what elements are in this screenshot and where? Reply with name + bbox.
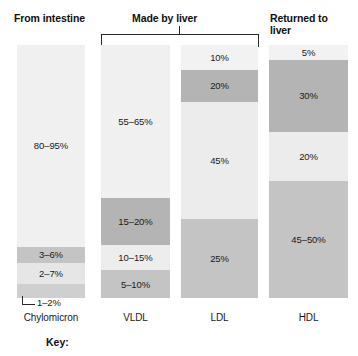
bar-segment-label: 5–10% bbox=[121, 279, 150, 290]
bar-segment-ldl-2[interactable]: 45% bbox=[181, 102, 258, 219]
group-header-made-by-liver: Made by liver bbox=[132, 12, 242, 24]
bar-segment-label: 55–65% bbox=[118, 116, 152, 127]
bar-segment-vldl-0[interactable]: 55–65% bbox=[101, 45, 170, 198]
bar-segment-hdl-0[interactable]: 5% bbox=[269, 45, 348, 60]
bar-segment-label: 80–95% bbox=[34, 140, 68, 151]
bar-segment-vldl-2[interactable]: 10–15% bbox=[101, 245, 170, 270]
bar-segment-vldl-3[interactable]: 5–10% bbox=[101, 270, 170, 298]
bar-segment-label: 30% bbox=[299, 90, 318, 101]
bar-column-hdl[interactable]: 5%30%20%45–50% bbox=[269, 45, 348, 298]
bar-segment-chylomicron-0[interactable]: 80–95% bbox=[17, 45, 85, 247]
bar-segment-label: 20% bbox=[299, 151, 318, 162]
bar-column-chylomicron[interactable]: 80–95%3–6%2–7% bbox=[17, 45, 85, 298]
bar-segment-ldl-3[interactable]: 25% bbox=[181, 219, 258, 298]
bar-segment-label: 45–50% bbox=[291, 234, 325, 245]
bracket-top-rule bbox=[101, 34, 259, 35]
bar-segment-chylomicron-1[interactable]: 3–6% bbox=[17, 247, 85, 263]
bar-segment-label: 45% bbox=[210, 155, 229, 166]
axis-label-chylomicron: Chylomicron bbox=[7, 312, 95, 323]
axis-label-ldl: LDL bbox=[181, 312, 258, 323]
bar-column-ldl[interactable]: 10%20%45%25% bbox=[181, 45, 258, 298]
bar-segment-label: 2–7% bbox=[39, 268, 63, 279]
bar-column-vldl[interactable]: 55–65%15–20%10–15%5–10% bbox=[101, 45, 170, 298]
bracket-right-cap bbox=[258, 34, 259, 47]
axis-label-vldl: VLDL bbox=[101, 312, 170, 323]
bar-segment-chylomicron-2[interactable]: 2–7% bbox=[17, 263, 85, 284]
bar-segment-label: 5% bbox=[302, 47, 316, 58]
bar-segment-label: 20% bbox=[210, 80, 229, 91]
bar-segment-label: 10% bbox=[210, 52, 229, 63]
bar-segment-label: 10–15% bbox=[118, 252, 152, 263]
bar-segment-ldl-1[interactable]: 20% bbox=[181, 70, 258, 102]
bar-segment-label: 25% bbox=[210, 253, 229, 264]
bar-segment-hdl-2[interactable]: 20% bbox=[269, 132, 348, 181]
group-header-returned-to-liver: Returned to liver bbox=[270, 12, 356, 36]
callout-horizontal-line bbox=[22, 304, 35, 305]
bar-segment-vldl-1[interactable]: 15–20% bbox=[101, 198, 170, 245]
callout-vertical-line bbox=[22, 296, 23, 304]
bar-segment-ldl-0[interactable]: 10% bbox=[181, 45, 258, 70]
bar-segment-hdl-3[interactable]: 45–50% bbox=[269, 181, 348, 298]
bar-segment-hdl-1[interactable]: 30% bbox=[269, 60, 348, 132]
axis-label-hdl: HDL bbox=[269, 312, 348, 323]
group-header-from-intestine: From intestine bbox=[14, 12, 104, 24]
key-heading: Key: bbox=[46, 336, 69, 348]
stacked-bar-chart: From intestine Made by liver Returned to… bbox=[0, 0, 358, 356]
chylomicron-smallest-segment-callout: 1–2% bbox=[22, 296, 102, 310]
bar-segment-label: 15–20% bbox=[118, 216, 152, 227]
callout-label: 1–2% bbox=[37, 297, 61, 308]
bar-segment-label: 3–6% bbox=[39, 249, 63, 260]
